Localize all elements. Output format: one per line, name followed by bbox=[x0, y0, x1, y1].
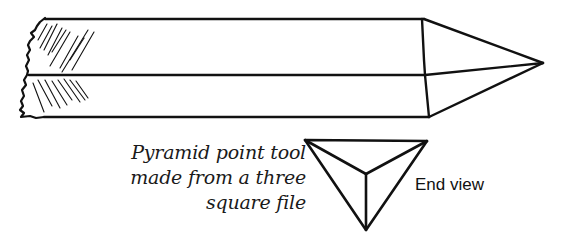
broken-end-outline bbox=[20, 18, 45, 118]
figure-caption: Pyramid point tool made from a three squ… bbox=[130, 140, 306, 215]
tip-lower-face bbox=[429, 63, 543, 117]
end-view-triangle bbox=[305, 140, 427, 230]
tip-base-line bbox=[422, 19, 429, 117]
hatch-marks bbox=[33, 24, 94, 112]
end-view-label: End view bbox=[415, 175, 484, 195]
tip-middle-ridge bbox=[425, 63, 543, 75]
caption-line-1: Pyramid point tool bbox=[130, 140, 306, 165]
caption-line-3: square file bbox=[130, 190, 306, 215]
caption-line-2: made from a three bbox=[130, 165, 306, 190]
pyramid-point-tool-figure: Pyramid point tool made from a three squ… bbox=[0, 0, 561, 241]
tip-upper-face bbox=[424, 19, 543, 63]
